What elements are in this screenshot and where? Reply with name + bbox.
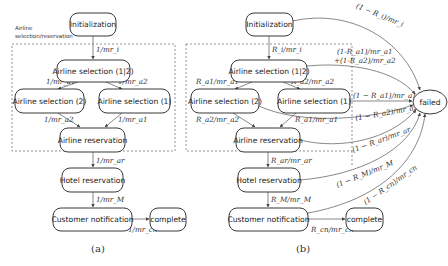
edge-label: (1 − R_i)/mr_i bbox=[355, 1, 405, 28]
svg-text:Customer notification: Customer notification bbox=[227, 215, 309, 224]
edge-label: +(1-R_a2)/mr_a2 bbox=[334, 56, 396, 65]
caption-a: (a) bbox=[91, 243, 105, 254]
edge-label: (1 − R_a2)/mr_a2 bbox=[355, 103, 420, 123]
edge-label: (1 − R_ar)/mr_ar bbox=[351, 125, 412, 155]
svg-text:failed: failed bbox=[419, 98, 440, 107]
svg-text:Initialization: Initialization bbox=[246, 20, 292, 29]
node-airline-reservation: Airline reservation bbox=[58, 128, 128, 152]
node-initialization: Initialization bbox=[246, 13, 293, 36]
group-label-2: selection/reservation bbox=[15, 33, 73, 39]
group-label: Airline bbox=[15, 25, 33, 31]
edge-label: 1/mr_i bbox=[96, 45, 119, 54]
workflow-diagram: Airline selection/reservation 1/mr_i 1/m… bbox=[0, 0, 448, 266]
svg-text:complete: complete bbox=[347, 215, 383, 224]
edge-label: (1 − R_a1)/mr_a1 bbox=[353, 91, 417, 100]
node-initialization: Initialization bbox=[70, 13, 116, 36]
svg-text:complete: complete bbox=[150, 215, 186, 224]
node-airline-selection-2: Airline selection (2) bbox=[188, 89, 262, 113]
node-customer-notification: Customer notification bbox=[51, 208, 133, 231]
node-complete: complete bbox=[346, 208, 383, 231]
edge-label: R_a2/mr_a2 bbox=[195, 115, 239, 124]
svg-text:Airline reservation: Airline reservation bbox=[233, 136, 303, 145]
edge-label: R_ar/mr_ar bbox=[270, 156, 312, 165]
svg-text:Initialization: Initialization bbox=[70, 20, 116, 29]
panel-b: (1 − R_i)/mr_i (1-R_a1)/mr_a1 +(1-R_a2)/… bbox=[186, 1, 447, 254]
node-airline-selection-2: Airline selection (2) bbox=[13, 89, 87, 113]
node-failed: failed bbox=[413, 90, 447, 114]
edge-label: 1/mr_ar bbox=[96, 156, 125, 165]
svg-text:Airline selection (1|2): Airline selection (1|2) bbox=[52, 67, 133, 76]
edge-label: R_M/mr_M bbox=[270, 195, 312, 204]
node-complete: complete bbox=[150, 208, 186, 231]
svg-text:Hotel reservation: Hotel reservation bbox=[236, 176, 302, 185]
node-airline-selection-1or2: Airline selection (1|2) bbox=[228, 60, 309, 82]
node-hotel-reservation: Hotel reservation bbox=[236, 168, 302, 192]
node-hotel-reservation: Hotel reservation bbox=[60, 168, 126, 192]
edge-label: 1/mr_a2 bbox=[44, 115, 74, 124]
svg-text:Airline selection (2): Airline selection (2) bbox=[13, 97, 87, 106]
svg-text:Customer notification: Customer notification bbox=[51, 215, 133, 224]
svg-text:Airline selection (1): Airline selection (1) bbox=[98, 97, 172, 106]
edge-label: (1-R_a1)/mr_a1 bbox=[337, 47, 393, 56]
node-airline-reservation: Airline reservation bbox=[233, 128, 303, 152]
caption-b: (b) bbox=[296, 243, 310, 254]
edge-label: 1/mr_a1 bbox=[118, 115, 148, 124]
svg-text:Airline selection (1|2): Airline selection (1|2) bbox=[228, 67, 309, 76]
node-airline-selection-1or2: Airline selection (1|2) bbox=[52, 60, 133, 82]
svg-text:Airline selection (2): Airline selection (2) bbox=[188, 97, 262, 106]
node-customer-notification: Customer notification bbox=[227, 208, 309, 231]
svg-text:Hotel reservation: Hotel reservation bbox=[60, 176, 126, 185]
edge-label: R_i/mr_i bbox=[271, 45, 302, 54]
node-airline-selection-1: Airline selection (1) bbox=[98, 89, 172, 113]
node-airline-selection-1: Airline selection (1) bbox=[277, 89, 351, 113]
svg-text:Airline reservation: Airline reservation bbox=[58, 136, 128, 145]
edge-label: R_a1/mr_a1 bbox=[294, 115, 338, 124]
svg-text:Airline selection (1): Airline selection (1) bbox=[277, 97, 351, 106]
edge-label: 1/mr_M bbox=[96, 195, 125, 204]
panel-a: Airline selection/reservation 1/mr_i 1/m… bbox=[12, 13, 186, 254]
